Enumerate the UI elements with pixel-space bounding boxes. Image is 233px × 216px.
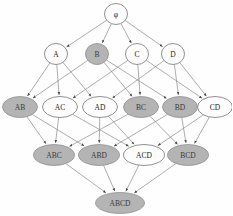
- node-label-AB: AB: [15, 103, 25, 112]
- lattice-edge-D-to-AD: [113, 61, 164, 98]
- lattice-node-BC[interactable]: BC: [124, 97, 159, 118]
- lattice-node-empty[interactable]: φ: [105, 4, 128, 25]
- node-label-B: B: [94, 50, 99, 59]
- node-label-ACD: ACD: [136, 151, 152, 160]
- lattice-edge-empty-to-C: [121, 23, 131, 43]
- lattice-node-C[interactable]: C: [126, 44, 149, 65]
- lattice-node-ABCD[interactable]: ABCD: [96, 193, 145, 214]
- node-label-BC: BC: [136, 103, 146, 112]
- lattice-node-A[interactable]: A: [45, 44, 68, 65]
- lattice-edge-AC-to-ACD: [73, 114, 129, 146]
- lattice-node-D[interactable]: D: [162, 44, 185, 65]
- node-label-ABC: ABC: [46, 151, 61, 160]
- lattice-node-AB[interactable]: AB: [3, 97, 38, 118]
- lattice-edge-ABC-to-ABCD: [66, 164, 106, 193]
- lattice-node-AD[interactable]: AD: [83, 97, 118, 118]
- lattice-node-BCD[interactable]: BCD: [168, 145, 209, 166]
- node-label-CD: CD: [210, 103, 221, 112]
- lattice-edge-BCD-to-ABCD: [134, 164, 176, 193]
- node-label-ABCD: ABCD: [110, 199, 131, 208]
- lattice-edge-C-to-CD: [146, 60, 202, 98]
- lattice-edge-B-to-AB: [33, 60, 88, 98]
- subset-lattice-diagram: φABCDABACADBCBDCDABCABDACDBCDABCD: [0, 0, 232, 216]
- lattice-edge-A-to-AC: [57, 64, 59, 94]
- lattice-edge-empty-to-A: [67, 20, 107, 47]
- node-label-ABD: ABD: [91, 151, 107, 160]
- node-label-D: D: [170, 50, 176, 59]
- lattice-edge-BD-to-BCD: [182, 117, 186, 143]
- lattice-edge-empty-to-B: [102, 24, 111, 43]
- lattice-edge-CD-to-ACD: [158, 115, 203, 146]
- lattice-edge-A-to-AB: [28, 63, 50, 96]
- lattice-edge-BC-to-ABC: [70, 114, 129, 146]
- lattice-node-B[interactable]: B: [86, 44, 109, 65]
- node-label-BD: BD: [175, 103, 186, 112]
- lattice-node-AC[interactable]: AC: [43, 97, 78, 118]
- node-label-A: A: [53, 50, 59, 59]
- lattice-node-ABC[interactable]: ABC: [34, 145, 75, 166]
- lattice-edge-B-to-BD: [106, 60, 166, 98]
- lattice-node-ACD[interactable]: ACD: [124, 145, 165, 166]
- lattice-edge-BC-to-BCD: [150, 116, 178, 144]
- node-label-AC: AC: [55, 103, 65, 112]
- lattice-edge-D-to-CD: [180, 63, 207, 97]
- lattice-edge-ACD-to-ABCD: [126, 165, 139, 191]
- node-label-AD: AD: [95, 103, 106, 112]
- lattice-node-BD[interactable]: BD: [163, 97, 198, 118]
- lattice-edge-CD-to-BCD: [195, 117, 210, 143]
- lattice-edge-ABD-to-ABCD: [103, 165, 114, 191]
- node-layer: φABCDABACADBCBDCDABCABDACDBCDABCD: [3, 4, 233, 214]
- lattice-node-CD[interactable]: CD: [198, 97, 233, 118]
- node-label-BCD: BCD: [180, 151, 196, 160]
- lattice-edge-BD-to-ABD: [114, 114, 168, 146]
- node-label-C: C: [134, 50, 139, 59]
- hasse-diagram-container: φABCDABACADBCBDCDABCABDACDBCDABCD: [0, 0, 232, 216]
- node-label-empty: φ: [114, 10, 119, 19]
- lattice-node-ABD[interactable]: ABD: [79, 145, 120, 166]
- lattice-edge-AD-to-ACD: [108, 116, 134, 144]
